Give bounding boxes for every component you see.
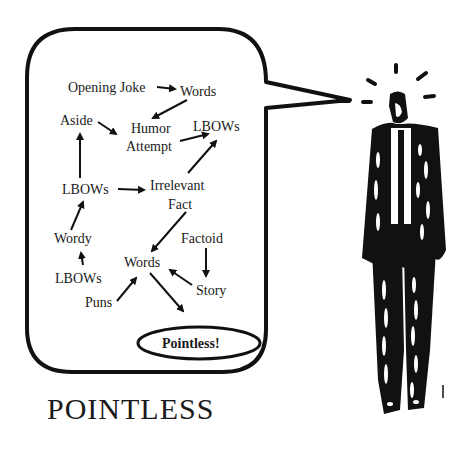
speaker-figure [341,65,446,414]
node-pointless: Pointless! [162,336,220,351]
cartoon-title: POINTLESS [47,392,214,425]
emphasis-lines-icon [341,65,434,102]
arrow-lbows-to-irrelevant [118,189,144,190]
pointless-cartoon: Opening Joke Words Aside Humor Attempt L… [0,0,474,461]
node-lbows-3: LBOWs [55,271,102,286]
node-attempt: Attempt [126,139,172,154]
node-aside: Aside [60,113,93,128]
node-irrelevant: Irrelevant [150,178,205,193]
node-wordy: Wordy [54,231,92,246]
node-story: Story [196,283,226,298]
node-fact: Fact [168,197,192,212]
node-lbows-2: LBOWs [62,182,109,197]
node-puns: Puns [85,295,112,310]
node-words-2: Words [124,255,160,270]
node-words-1: Words [180,84,216,99]
node-lbows-1: LBOWs [193,119,240,134]
node-humor: Humor [131,121,171,136]
node-factoid: Factoid [181,231,223,246]
node-opening-joke: Opening Joke [68,80,145,95]
